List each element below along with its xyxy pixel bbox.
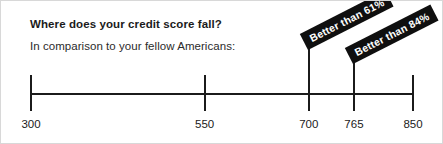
number-line-axis [30,93,414,95]
page-title: Where does your credit score fall? [30,18,222,30]
axis-tick-label-550: 550 [195,118,214,130]
credit-score-figure: Where does your credit score fall? In co… [0,0,443,144]
axis-tick-label-700: 700 [299,118,318,130]
axis-tick-300 [30,75,32,111]
axis-tick-550 [204,75,206,111]
axis-tick-850 [412,75,414,111]
axis-tick-label-300: 300 [21,118,40,130]
axis-tick-label-765: 765 [344,118,363,130]
subtitle: In comparison to your fellow Americans: [30,40,235,52]
marker-pointer-700 [308,49,310,94]
axis-tick-label-850: 850 [403,118,422,130]
marker-pointer-765 [353,63,355,94]
